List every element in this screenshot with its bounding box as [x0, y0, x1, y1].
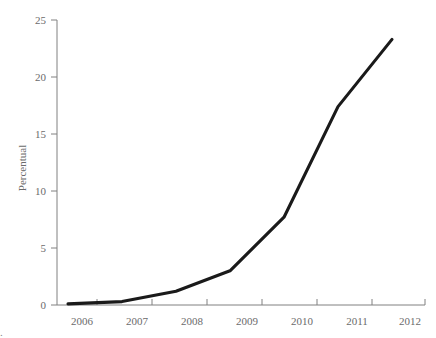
- y-tick-label-20: 20: [35, 71, 47, 83]
- y-tick-label-0: 0: [41, 299, 47, 311]
- data-series-line: [68, 39, 392, 303]
- line-chart: 25 20 15 10 5 0 2006 2007 2008 2009 2010…: [0, 0, 436, 338]
- y-tick-label-5: 5: [41, 242, 47, 254]
- y-axis-title: Percentual: [16, 145, 28, 191]
- y-tick-label-15: 15: [35, 128, 47, 140]
- page-caption: .: [0, 326, 436, 338]
- y-tick-label-25: 25: [35, 14, 47, 26]
- chart-figure: 25 20 15 10 5 0 2006 2007 2008 2009 2010…: [0, 0, 436, 338]
- y-tick-label-10: 10: [35, 185, 47, 197]
